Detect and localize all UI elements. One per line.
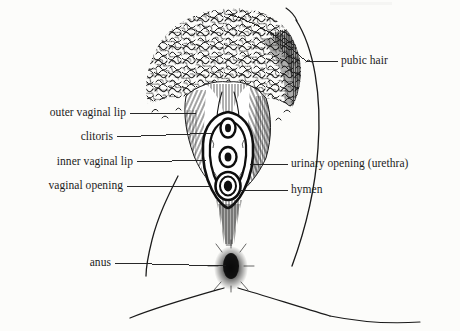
label-anus: anus bbox=[0, 257, 111, 269]
label-clitoris: clitoris bbox=[0, 131, 113, 143]
urethra-opening bbox=[220, 147, 237, 167]
diagram-page: outer vaginal lip clitoris inner vaginal… bbox=[0, 0, 460, 331]
label-inner-vaginal-lip: inner vaginal lip bbox=[0, 156, 133, 168]
label-hymen: hymen bbox=[291, 184, 323, 196]
perineum-and-anus bbox=[208, 200, 254, 292]
label-outer-vaginal-lip: outer vaginal lip bbox=[0, 107, 126, 119]
label-pubic-hair: pubic hair bbox=[341, 55, 388, 67]
leader-anus bbox=[115, 263, 226, 266]
vaginal-opening-structure bbox=[216, 172, 241, 200]
labia-minora-and-openings bbox=[203, 112, 253, 208]
clitoris-structure bbox=[221, 119, 236, 138]
label-urinary-opening: urinary opening (urethra) bbox=[291, 158, 408, 170]
label-vaginal-opening: vaginal opening bbox=[0, 180, 123, 192]
